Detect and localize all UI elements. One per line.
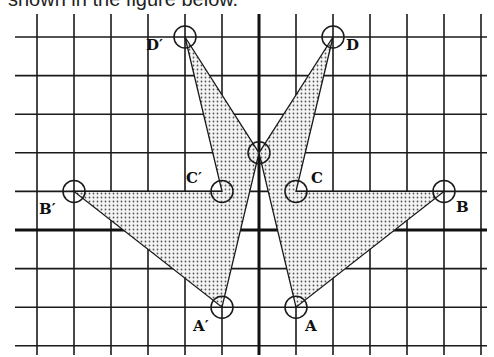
label-a: A xyxy=(304,317,317,335)
label-d-prime: D′ xyxy=(146,36,163,54)
label-c-prime: C′ xyxy=(186,169,202,187)
label-b-prime: B′ xyxy=(39,200,56,218)
label-d: D xyxy=(346,36,359,54)
label-a-prime: A′ xyxy=(192,317,209,335)
original-shape xyxy=(259,37,444,307)
label-b: B xyxy=(456,198,469,216)
label-c: C xyxy=(311,169,323,187)
reflected-shape xyxy=(74,37,259,307)
coordinate-grid-figure: D′ D C′ C B′ B A′ A xyxy=(0,0,494,357)
